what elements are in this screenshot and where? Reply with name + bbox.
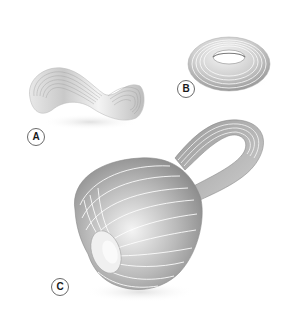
klein-bottle-illustration — [0, 0, 289, 319]
topology-figure: A B C — [0, 0, 289, 319]
label-c: C — [51, 278, 69, 296]
label-a: A — [27, 128, 45, 146]
label-b: B — [177, 80, 195, 98]
